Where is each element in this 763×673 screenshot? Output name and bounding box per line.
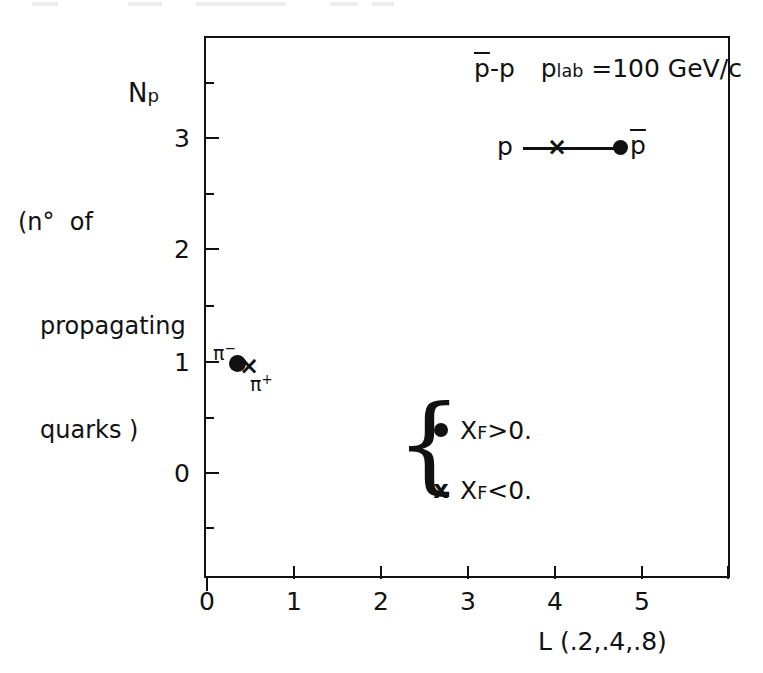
pi-minus-symbol: π [213,342,224,364]
pi-minus-charge: − [224,341,235,356]
x-axis-title: L (.2,.4,.8) [538,627,667,656]
x-tick-1 [293,566,295,579]
datapoint-label-antiproton: p [630,133,646,158]
momentum-symbol: p [541,54,557,83]
legend-marker-cross: x [422,476,460,504]
y-tick-2 [206,248,219,250]
x-ticklabel-1: 1 [286,589,302,614]
beam-annotation: p-p plab =100 GeV/c [474,54,742,83]
momentum-value: =100 GeV/c [591,54,742,83]
x-ticklabel-5: 5 [634,589,650,614]
momentum-subscript: lab [557,61,584,81]
y-axis-title-symbol: N [128,78,147,108]
beam-target-symbol: -p [490,54,515,83]
legend-label-xf-negative: XF<0. [460,476,532,505]
y-axis-note-line3: quarks ) [18,413,186,448]
x-tick-3 [467,566,469,579]
datapoint-marker-proton-cross: × [547,135,567,159]
x-tick-end [727,566,729,579]
figure-root: 0 1 2 3 4 5 3 2 1 0 Np (n° of propagatin… [0,0,763,673]
y-axis-title: Np [128,78,159,108]
beam-antiproton-symbol: p [474,54,490,83]
y-tick-3 [206,137,219,139]
x-tick-5 [641,566,643,579]
legend: { XF>0. x XF<0. [396,404,636,519]
scan-artifact [0,0,763,10]
y-axis-note-line1: (n° of [18,205,186,240]
x-ticklabel-3: 3 [460,589,476,614]
y-tick-minor-0p5 [206,417,214,419]
datapoint-label-proton: p [497,134,513,159]
y-axis-title-subscript: p [147,85,159,106]
y-tick-minor-2p5 [206,193,214,195]
legend-marker-filled-circle [422,423,460,437]
datapoint-label-pi-plus: π+ [250,373,273,394]
antiproton-symbol: p [630,131,646,160]
pi-plus-symbol: π [250,373,261,395]
y-tick-minor-1p5 [206,305,214,307]
x-ticklabel-0: 0 [199,589,215,614]
x-tick-2 [380,566,382,579]
y-tick-minor-3p5 [206,82,214,84]
proton-antiproton-connector [523,147,619,150]
x-tick-4 [554,566,556,579]
legend-row-xf-negative: x XF<0. [422,470,532,510]
legend-label-xf-positive: XF>0. [460,416,532,445]
y-tick-0 [206,472,219,474]
pi-plus-charge: + [261,372,272,387]
datapoint-marker-antiproton-dot [613,140,628,155]
x-ticklabel-4: 4 [547,589,563,614]
y-axis-note: (n° of propagating quarks ) [18,135,186,518]
legend-row-xf-positive: XF>0. [422,410,532,450]
y-axis-note-line2: propagating [18,309,186,344]
y-tick-minor-m0p5 [206,527,214,529]
x-ticklabel-2: 2 [373,589,389,614]
